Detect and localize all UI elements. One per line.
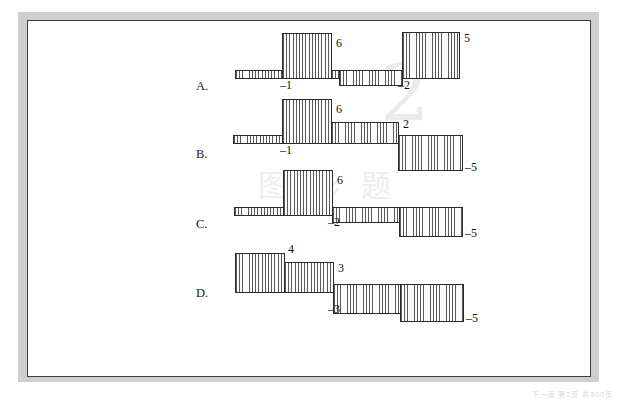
option-a-step-1 (235, 70, 283, 79)
figure-canvas: 2 图 形 题 A. 5 6 –1 –2 B. 6 –1 2 –5 C. 6 –… (28, 21, 590, 376)
option-c-step-3 (332, 207, 400, 223)
option-a-step-2 (282, 33, 332, 79)
option-d-value-3: 3 (338, 261, 344, 276)
option-c-step-2 (283, 170, 333, 216)
option-b-value-neg1: –1 (280, 143, 292, 158)
option-b-step-1 (233, 135, 283, 144)
option-b-value-2: 2 (403, 117, 409, 132)
option-b-value-neg5: –5 (465, 160, 477, 175)
option-c-step-4 (399, 207, 463, 237)
option-c-value-neg2: –2 (328, 215, 340, 230)
option-c-value-6: 6 (337, 173, 343, 188)
option-b-step-4 (398, 135, 463, 171)
option-b-value-6: 6 (336, 102, 342, 117)
option-label-d: D. (196, 286, 208, 301)
option-d-step-2 (284, 262, 334, 293)
option-d-value-neg3: –3 (328, 302, 340, 317)
option-d-step-3 (333, 284, 401, 314)
figure-page: 2 图 形 题 A. 5 6 –1 –2 B. 6 –1 2 –5 C. 6 –… (0, 0, 619, 402)
option-label-b: B. (196, 147, 207, 162)
option-d-step-4 (400, 284, 464, 322)
option-d-step-1 (235, 253, 285, 293)
option-b-step-2 (282, 99, 332, 144)
option-label-a: A. (196, 79, 208, 94)
option-a-value-neg1: –1 (280, 78, 292, 93)
option-label-c: C. (196, 217, 207, 232)
option-a-value-6: 6 (336, 36, 342, 51)
option-c-value-neg5: –5 (465, 226, 477, 241)
option-a-value-neg2: –2 (398, 78, 410, 93)
option-d-value-4: 4 (288, 242, 294, 257)
page-corner-note: 下一页 第2页 共300页 (532, 389, 613, 399)
option-c-step-1 (234, 207, 284, 216)
option-d-value-neg5: –5 (466, 311, 478, 326)
option-a-step-5 (402, 32, 460, 79)
option-a-value-5: 5 (464, 31, 470, 46)
option-a-step-4 (339, 70, 403, 86)
option-b-step-3 (331, 122, 399, 144)
